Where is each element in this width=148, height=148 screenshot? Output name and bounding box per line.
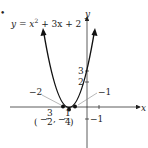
left-arrowhead-icon bbox=[41, 28, 47, 36]
root-point-neg1 bbox=[73, 105, 77, 109]
right-arrowhead-icon bbox=[92, 28, 98, 36]
svg-text:): ) bbox=[70, 117, 74, 127]
parabola-graph: • y = x2 + 3x + 2 y x 3 2 −1 −2 −1 ( − 3… bbox=[0, 0, 148, 148]
vertex-label: ( − 3 2 , − 1 4 ) bbox=[34, 108, 74, 127]
svg-text:(: ( bbox=[34, 117, 38, 127]
callout-label-neg2: −2 bbox=[29, 87, 42, 97]
y-tick-label-2: 2 bbox=[78, 77, 84, 87]
y-tick-label-3: 3 bbox=[78, 66, 84, 76]
callout-line-neg1 bbox=[78, 93, 97, 105]
callout-label-neg1: −1 bbox=[98, 87, 111, 97]
y-tick-label-neg1: −1 bbox=[90, 114, 103, 124]
equation-label: y = x2 + 3x + 2 bbox=[10, 17, 81, 29]
y-axis-label: y bbox=[84, 9, 91, 19]
svg-text:2: 2 bbox=[47, 117, 53, 127]
callout-line-neg2 bbox=[42, 95, 61, 105]
svg-text:,: , bbox=[53, 114, 56, 124]
x-axis-label: x bbox=[141, 103, 146, 113]
bullet-marker: • bbox=[0, 8, 5, 18]
